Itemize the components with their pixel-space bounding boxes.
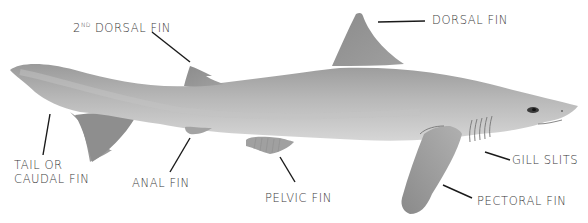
ordinal-suffix: ND: [81, 21, 91, 28]
dorsal-fin: [332, 13, 404, 66]
label-second-dorsal-fin: 2ND DORSAL FIN: [73, 18, 171, 35]
ordinal-number: 2: [73, 21, 81, 35]
leader-dorsal: [378, 21, 425, 22]
leader-pelvic: [280, 157, 295, 182]
leader-second-dorsal: [152, 32, 190, 62]
label-pectoral-fin: PECTORAL FIN: [477, 194, 567, 208]
leader-anal: [170, 138, 190, 172]
label-pelvic-fin: PELVIC FIN: [265, 191, 332, 205]
label-text-line1: TAIL OR: [14, 158, 90, 172]
second-dorsal-fin: [184, 66, 224, 86]
label-text: DORSAL FIN: [432, 13, 508, 27]
label-text: ANAL FIN: [132, 176, 190, 190]
pelvic-fin: [246, 137, 294, 154]
label-text: PELVIC FIN: [265, 191, 332, 205]
caudal-fin-lower: [75, 113, 135, 162]
label-gill-slits: GILL SLITS: [512, 153, 578, 167]
label-dorsal-fin: DORSAL FIN: [432, 13, 508, 27]
label-text-line2: CAUDAL FIN: [14, 172, 90, 186]
label-text: PECTORAL FIN: [477, 194, 567, 208]
label-text: GILL SLITS: [512, 153, 578, 167]
shark-diagram: 2ND DORSAL FIN DORSAL FIN TAIL OR CAUDAL…: [0, 0, 588, 223]
label-tail-caudal-fin: TAIL OR CAUDAL FIN: [14, 158, 90, 186]
label-text: DORSAL FIN: [95, 21, 171, 35]
leader-gill: [485, 152, 510, 160]
leader-pectoral: [443, 185, 472, 198]
leader-tail: [43, 114, 50, 155]
eye: [527, 107, 539, 113]
label-anal-fin: ANAL FIN: [132, 176, 190, 190]
